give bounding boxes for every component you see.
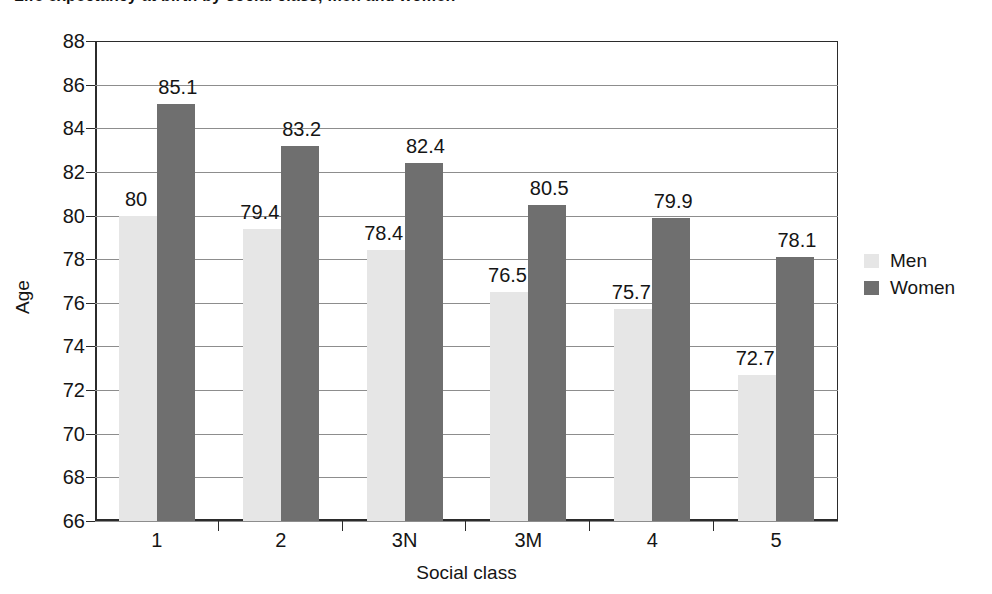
y-tick-label: 78 (0, 248, 85, 271)
legend: MenWomen (864, 247, 955, 301)
bar-men[interactable]: 75.7 (614, 309, 652, 521)
bar-group: 79.483.2 (219, 41, 343, 521)
y-tick-mark (86, 41, 95, 42)
x-tick-label: 1 (95, 529, 219, 552)
chart-canvas: Life expectancy at birth by social class… (0, 0, 992, 594)
y-tick-label: 80 (0, 204, 85, 227)
x-axis-label: Social class (95, 562, 838, 584)
bar-group: 8085.1 (95, 41, 219, 521)
bar-value-label: 79.9 (654, 190, 693, 213)
bar-group: 78.482.4 (343, 41, 467, 521)
legend-label: Women (890, 277, 955, 299)
bar-value-label: 78.1 (777, 229, 816, 252)
bar-value-label: 83.2 (282, 118, 321, 141)
legend-item[interactable]: Men (864, 247, 955, 274)
bar-value-label: 75.7 (612, 281, 651, 304)
bar-men[interactable]: 76.5 (490, 292, 528, 521)
bar-value-label: 79.4 (240, 201, 279, 224)
bar-pair: 78.482.4 (367, 41, 443, 521)
bar-women[interactable]: 82.4 (405, 163, 443, 521)
bar-men[interactable]: 80 (119, 216, 157, 521)
bar-pair: 72.778.1 (738, 41, 814, 521)
y-tick-label: 88 (0, 30, 85, 53)
y-tick-mark (86, 216, 95, 217)
bar-value-label: 80.5 (530, 177, 569, 200)
bar-men[interactable]: 72.7 (738, 375, 776, 521)
y-tick-label: 82 (0, 160, 85, 183)
y-tick-mark (86, 434, 95, 435)
bar-pair: 8085.1 (119, 41, 195, 521)
bar-value-label: 78.4 (364, 222, 403, 245)
x-tick-label: 4 (590, 529, 714, 552)
bar-women[interactable]: 85.1 (157, 104, 195, 521)
bar-women[interactable]: 80.5 (528, 205, 566, 521)
bar-women[interactable]: 79.9 (652, 218, 690, 521)
y-tick-label: 76 (0, 291, 85, 314)
bar-value-label: 72.7 (736, 347, 775, 370)
y-tick-mark (86, 477, 95, 478)
y-tick-mark (86, 128, 95, 129)
y-tick-mark (86, 303, 95, 304)
gridline (95, 521, 838, 522)
bar-women[interactable]: 78.1 (776, 257, 814, 521)
x-tick-label: 2 (219, 529, 343, 552)
y-tick-label: 70 (0, 422, 85, 445)
bar-value-label: 85.1 (158, 76, 197, 99)
bar-group: 72.778.1 (714, 41, 838, 521)
plot-area: 8085.179.483.278.482.476.580.575.779.972… (95, 41, 838, 521)
bar-value-label: 82.4 (406, 135, 445, 158)
y-tick-label: 68 (0, 466, 85, 489)
bar-groups: 8085.179.483.278.482.476.580.575.779.972… (95, 41, 838, 521)
y-tick-mark (86, 346, 95, 347)
y-tick-mark (86, 521, 95, 522)
y-tick-mark (86, 85, 95, 86)
y-tick-label: 66 (0, 510, 85, 533)
legend-swatch-women (864, 281, 879, 295)
y-tick-mark (86, 259, 95, 260)
y-tick-label: 84 (0, 117, 85, 140)
bar-men[interactable]: 79.4 (243, 229, 281, 521)
y-tick-mark (86, 390, 95, 391)
bar-pair: 79.483.2 (243, 41, 319, 521)
y-tick-mark (86, 172, 95, 173)
legend-swatch-men (864, 254, 879, 268)
x-tick-label: 3M (466, 529, 590, 552)
y-tick-label: 74 (0, 335, 85, 358)
bar-pair: 75.779.9 (614, 41, 690, 521)
legend-item[interactable]: Women (864, 274, 955, 301)
x-tick-label: 5 (714, 529, 838, 552)
legend-label: Men (890, 250, 927, 272)
bar-value-label: 76.5 (488, 264, 527, 287)
x-tick-label: 3N (343, 529, 467, 552)
bar-group: 76.580.5 (466, 41, 590, 521)
y-tick-label: 72 (0, 379, 85, 402)
bar-pair: 76.580.5 (490, 41, 566, 521)
chart-title: Life expectancy at birth by social class… (14, 0, 455, 5)
y-tick-label: 86 (0, 73, 85, 96)
bar-men[interactable]: 78.4 (367, 250, 405, 521)
bar-value-label: 80 (125, 188, 147, 211)
bar-group: 75.779.9 (590, 41, 714, 521)
bar-women[interactable]: 83.2 (281, 146, 319, 521)
x-axis-tick-labels: 123N3M45 (95, 529, 838, 552)
